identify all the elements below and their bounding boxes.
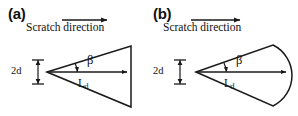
panel-a-beta-arc <box>75 63 78 72</box>
panel-a-thickness-dimension <box>32 60 44 84</box>
panel-a-length-subscript: d <box>85 82 89 91</box>
panel-b-beta-label: β <box>236 54 242 67</box>
panel-a-length-letter: L <box>78 77 85 89</box>
panel-b-drawing <box>149 0 298 116</box>
panel-a: (a) Scratch direction <box>0 0 149 116</box>
panel-b-length-label: Ld <box>224 78 235 90</box>
panel-b-thickness-dimension <box>174 60 186 84</box>
panel-b-thickness-label: 2d <box>153 66 164 77</box>
panel-b: (b) Scratch direction <box>149 0 298 116</box>
scratch-geometry-figure: (a) Scratch direction <box>0 0 298 116</box>
panel-b-length-subscript: d <box>231 82 235 91</box>
panel-b-wedge-outline <box>196 45 292 106</box>
panel-b-length-letter: L <box>224 77 231 89</box>
panel-a-drawing <box>0 0 149 116</box>
panel-a-length-label: Ld <box>78 78 89 90</box>
panel-a-thickness-label: 2d <box>11 66 22 77</box>
panel-b-beta-arc <box>224 63 227 72</box>
panel-a-beta-label: β <box>87 54 93 67</box>
